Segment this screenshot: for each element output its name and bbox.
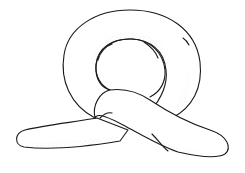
drawing-canvas [0, 0, 245, 173]
left-tail [17, 118, 128, 148]
looped-rope-illustration [0, 0, 245, 173]
